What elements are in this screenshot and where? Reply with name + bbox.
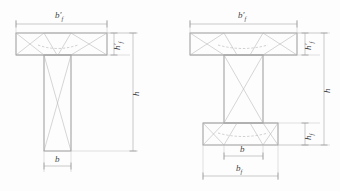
figure-root: b′f h′f h b b′f h′f h hf b bf [0,0,340,191]
i-label-bf-bottom: bf [236,164,242,175]
t-label-h: h [132,92,141,97]
i-label-b: b [240,145,245,154]
i-top-flange-outline [190,33,297,55]
t-flange-dashed-curve [38,45,78,49]
t-web-cross-hatch [44,55,71,151]
t-label-bf: b′f [55,11,63,22]
i-bottom-flange-dashed-curve [218,133,268,137]
i-top-flange-junction-lines [224,33,263,55]
i-label-h: h [323,89,332,94]
i-web-cross-hatch [224,55,263,123]
i-bottom-flange-outline [203,123,278,145]
t-top-flange-hatch [16,33,107,55]
i-label-bf-top: b′f [238,11,246,22]
i-top-flange-dashed-curve [218,45,268,49]
t-label-b: b [55,155,60,164]
cross-section-drawing [0,0,340,191]
i-label-hf-top: h′f [304,42,315,50]
i-bottom-flange-hatch [203,123,278,145]
t-label-hf: h′f [113,42,124,50]
i-section-geometry [190,33,297,145]
i-label-hf-bottom: hf [304,134,315,140]
t-section-geometry [16,33,107,151]
i-bottom-flange-junction-lines [224,123,263,145]
t-flange-web-junction-lines [44,33,71,55]
i-top-flange-hatch [190,33,297,55]
